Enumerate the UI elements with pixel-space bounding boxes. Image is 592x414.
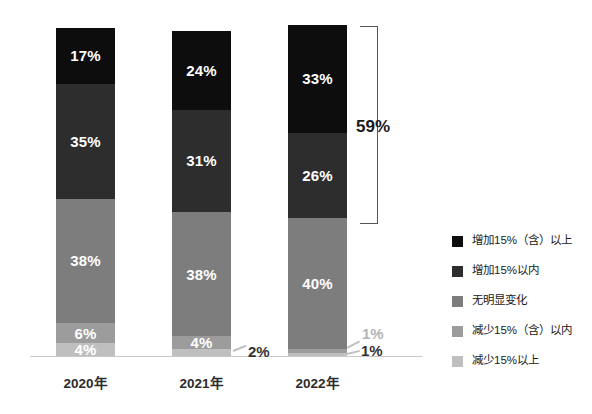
bar-2021-segment-1[interactable]: 31%: [172, 110, 231, 212]
leader-line-bar-2021: [233, 345, 247, 352]
bar-2022-segment-0-label: 33%: [302, 71, 333, 86]
legend-label-decrease-over-15: 减少15%以上: [472, 355, 539, 367]
bar-2022-segment-4[interactable]: 1%: [288, 353, 347, 356]
bar-2020-segment-1[interactable]: 35%: [56, 84, 115, 199]
bracket-annotation-label: 59%: [356, 117, 390, 137]
legend-item-decrease-within-15[interactable]: 减少15%（含）以内: [452, 316, 592, 346]
x-axis-label-2022: 2022年: [262, 372, 372, 392]
legend-item-decrease-over-15[interactable]: 减少15%以上: [452, 346, 592, 376]
bar-2020-segment-0[interactable]: 17%: [56, 28, 115, 84]
leader-line-bar-2022-upper: [347, 341, 360, 349]
bar-2021-segment-3-label: 4%: [190, 335, 212, 350]
legend-swatch-decrease-within-15: [452, 326, 463, 337]
plot-area: 17% 35% 38% 6% 4% 24% 31% 38%: [0, 0, 440, 414]
legend-swatch-increase-over-15: [452, 236, 463, 247]
bar-2020-segment-4[interactable]: 4%: [56, 343, 115, 356]
callout-2021-decrease-over-15: 2%: [248, 344, 270, 359]
legend-swatch-no-change: [452, 296, 463, 307]
bar-2021-segment-2[interactable]: 38%: [172, 212, 231, 337]
legend-swatch-increase-within-15: [452, 266, 463, 277]
legend-label-decrease-within-15: 减少15%（含）以内: [472, 325, 572, 337]
bar-2022-segment-2-label: 40%: [302, 276, 333, 291]
bar-2020-segment-3-label: 6%: [74, 326, 96, 341]
bar-2021-segment-2-label: 38%: [186, 267, 217, 282]
legend-item-increase-over-15[interactable]: 增加15%（含）以上: [452, 226, 592, 256]
leader-line-bar-2022-lower: [347, 350, 360, 355]
bar-2021-segment-0[interactable]: 24%: [172, 31, 231, 110]
bar-2022-segment-2[interactable]: 40%: [288, 218, 347, 349]
legend-item-increase-within-15[interactable]: 增加15%以内: [452, 256, 592, 286]
bar-2022-segment-1[interactable]: 26%: [288, 133, 347, 218]
bar-2020[interactable]: 17% 35% 38% 6% 4%: [56, 28, 115, 356]
legend-label-no-change: 无明显变化: [472, 295, 527, 307]
legend-swatch-decrease-over-15: [452, 356, 463, 367]
bar-2020-segment-2[interactable]: 38%: [56, 199, 115, 324]
bar-2020-segment-3[interactable]: 6%: [56, 323, 115, 343]
bar-2021-segment-3[interactable]: 4%: [172, 336, 231, 349]
x-axis-label-2020: 2020年: [30, 372, 140, 392]
legend-item-no-change[interactable]: 无明显变化: [452, 286, 592, 316]
bar-2020-segment-2-label: 38%: [70, 253, 101, 268]
bar-2022-segment-0[interactable]: 33%: [288, 25, 347, 133]
bar-2022[interactable]: 33% 26% 40% 1% 1%: [288, 25, 347, 356]
bar-2020-segment-1-label: 35%: [70, 134, 101, 149]
chart-legend: 增加15%（含）以上 增加15%以内 无明显变化 减少15%（含）以内 减少15…: [452, 226, 592, 376]
bar-2020-segment-0-label: 17%: [70, 48, 101, 63]
x-axis-label-2021: 2021年: [146, 372, 256, 392]
callout-2022-decrease-over-15: 1%: [361, 343, 383, 358]
bar-2021-segment-1-label: 31%: [186, 153, 217, 168]
legend-label-increase-within-15: 增加15%以内: [472, 265, 539, 277]
bar-2022-segment-1-label: 26%: [302, 168, 333, 183]
callout-2022-decrease-within-15: 1%: [362, 326, 384, 341]
bar-2020-segment-4-label: 4%: [74, 342, 96, 357]
stacked-bar-chart: 17% 35% 38% 6% 4% 24% 31% 38%: [0, 0, 592, 414]
bar-2021-segment-4[interactable]: 2%: [172, 349, 231, 356]
legend-label-increase-over-15: 增加15%（含）以上: [472, 235, 572, 247]
bar-2021[interactable]: 24% 31% 38% 4% 2%: [172, 31, 231, 356]
bar-2021-segment-0-label: 24%: [186, 63, 217, 78]
